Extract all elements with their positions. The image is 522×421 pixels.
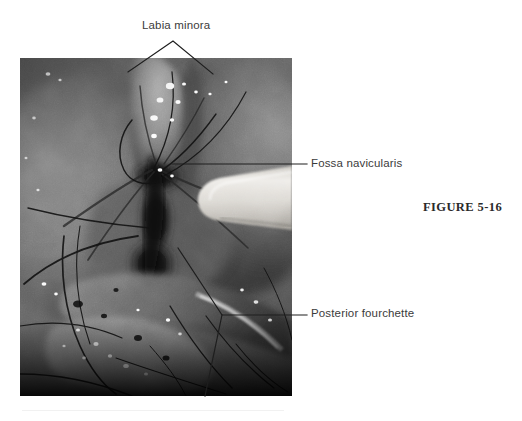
clinical-photograph xyxy=(20,58,292,396)
figure-root: Labia minora Fossa navicularis Posterior… xyxy=(0,0,522,421)
photograph-canvas xyxy=(20,58,292,396)
callout-label-labia-minora: Labia minora xyxy=(142,19,210,32)
callout-label-fossa-navicularis: Fossa navicularis xyxy=(311,157,402,170)
page-artifact-line xyxy=(22,410,284,411)
callout-label-posterior-fourchette: Posterior fourchette xyxy=(311,307,414,320)
figure-number: FIGURE 5-16 xyxy=(423,200,502,215)
